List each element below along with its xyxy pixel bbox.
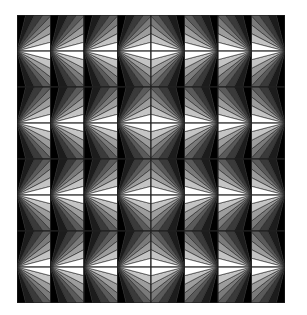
fan-tile [51, 87, 85, 159]
fan-tile [17, 231, 51, 303]
fan-tile [84, 231, 118, 303]
fan-tile [118, 15, 152, 87]
fan-tile [84, 87, 118, 159]
fan-tile [218, 159, 252, 231]
fan-tile [151, 231, 185, 303]
fan-tile [151, 15, 185, 87]
fan-tile [118, 87, 152, 159]
fan-tile [118, 159, 152, 231]
fan-tile [51, 159, 85, 231]
fan-tile [185, 15, 219, 87]
fan-tile [17, 87, 51, 159]
fan-tile [51, 15, 85, 87]
fan-tile [185, 159, 219, 231]
fan-tile [185, 87, 219, 159]
fan-tile [218, 231, 252, 303]
fan-tile [151, 87, 185, 159]
fan-tile [218, 87, 252, 159]
fan-tile [51, 231, 85, 303]
fan-tile [252, 231, 286, 303]
fan-tile [218, 15, 252, 87]
fan-tile [185, 231, 219, 303]
fan-tile [252, 15, 286, 87]
fan-tile [252, 87, 286, 159]
fan-tile [17, 15, 51, 87]
fan-tile [118, 231, 152, 303]
illusion-canvas [17, 15, 285, 303]
fan-tile [17, 159, 51, 231]
fan-tile [252, 159, 286, 231]
fan-tile [84, 159, 118, 231]
fan-tile [84, 15, 118, 87]
tiled-fan-illusion [17, 15, 285, 303]
fan-tile [151, 159, 185, 231]
